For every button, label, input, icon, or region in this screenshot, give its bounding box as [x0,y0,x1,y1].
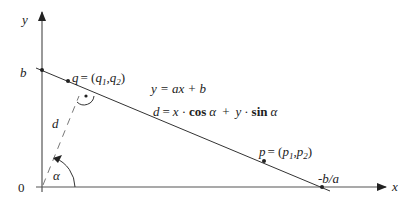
point-b [40,68,44,72]
neg-b-over-a-label: -b/a [318,171,339,186]
x-axis-label: x [391,179,398,194]
b-label: b [20,65,27,80]
point-q [66,79,70,83]
normal-form-equation: d=x·cosα+y·sinα [153,104,279,119]
line-normal-form-diagram: y x 0 b -b/a q= (q1,q2) p= (p1,p2) y = a… [0,0,404,204]
line-equation: y = ax + b [149,81,207,96]
distance-d-label: d [52,116,59,131]
q-label: q= (q1,q2) [72,70,125,87]
origin-label: 0 [18,180,25,195]
p-label: p= (p1,p2) [258,144,312,161]
point-p [262,159,266,163]
angle-alpha-label: α [53,168,61,183]
y-axis-label: y [20,12,28,27]
right-angle-dot [84,94,87,97]
distance-d-dashed [43,96,79,185]
